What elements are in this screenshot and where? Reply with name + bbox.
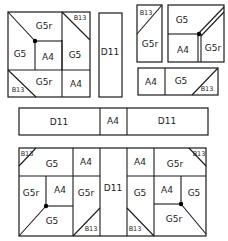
label-g5: G5 — [176, 15, 189, 25]
top-right-block: G5 A4 G5r — [168, 5, 224, 62]
seam-dot — [33, 39, 37, 43]
top-left-block: G5r B13 G5 A4 G5 B13 G5r A4 — [8, 12, 90, 97]
label-g5: G5 — [46, 216, 59, 226]
label-g5r: G5r — [36, 21, 53, 31]
label-d11: D11 — [101, 47, 119, 57]
label-b13: B13 — [21, 150, 34, 158]
label-d11: D11 — [104, 183, 122, 193]
seam-dot — [197, 32, 201, 36]
label-b13: B13 — [129, 225, 142, 233]
label-g5r: G5r — [205, 43, 222, 53]
label-g5r: G5r — [167, 159, 184, 169]
label-a4: A4 — [70, 79, 82, 89]
label-g5r: G5r — [78, 188, 95, 198]
seam-dot — [179, 202, 183, 206]
label-a4: A4 — [161, 185, 173, 195]
label-a4: A4 — [134, 157, 146, 167]
tall-d11-strip: D11 — [99, 13, 122, 97]
label-a4: A4 — [54, 185, 66, 195]
label-a4: A4 — [177, 45, 189, 55]
label-b13: B13 — [193, 150, 206, 158]
label-a4: A4 — [80, 157, 92, 167]
label-a4: A4 — [145, 77, 157, 87]
top-right-narrow-piece: B13 G5r — [137, 5, 162, 62]
label-g5: G5 — [69, 50, 82, 60]
quilt-piece-layout-diagram: G5r B13 G5 A4 G5 B13 G5r A4 D11 B13 G5r … — [0, 0, 228, 241]
label-b13: B13 — [201, 85, 214, 93]
label-g5: G5 — [175, 76, 188, 86]
label-g5: G5 — [134, 188, 147, 198]
label-b13: B13 — [85, 225, 98, 233]
bottom-block: B13 G5 A4 G5r A4 G5r G5 B13 D11 A4 G5r B… — [19, 148, 206, 236]
label-g5: G5 — [188, 188, 201, 198]
label-g5r: G5r — [142, 39, 159, 49]
label-g5r: G5r — [166, 214, 183, 224]
label-g5r: G5r — [23, 188, 40, 198]
label-b13: B13 — [140, 9, 153, 17]
top-right-strip: A4 G5 B13 — [138, 68, 218, 95]
label-d11: D11 — [50, 117, 68, 127]
label-g5: G5 — [46, 159, 59, 169]
label-g5: G5 — [14, 49, 27, 59]
label-a4: A4 — [107, 116, 119, 126]
label-d11: D11 — [158, 116, 176, 126]
label-b13: B13 — [74, 14, 87, 22]
label-b13: B13 — [12, 86, 25, 94]
middle-strip: D11 A4 D11 — [19, 108, 208, 135]
seam-dot — [44, 204, 48, 208]
label-a4: A4 — [42, 52, 54, 62]
label-g5r: G5r — [36, 77, 53, 87]
